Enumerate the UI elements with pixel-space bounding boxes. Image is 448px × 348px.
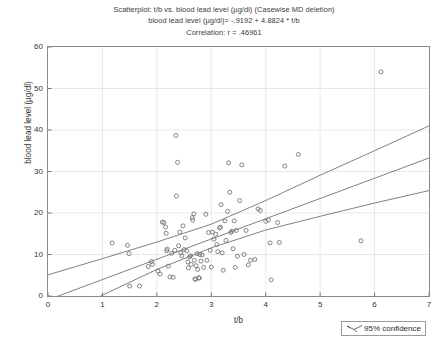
- chart-correlation: Correlation: r = .46961: [0, 27, 448, 38]
- x-axis-tick-labels: 01234567: [47, 300, 430, 314]
- data-point: [268, 241, 272, 245]
- y-tick-label: 20: [19, 209, 43, 217]
- x-tick-label: 7: [419, 300, 439, 310]
- data-point: [189, 262, 193, 266]
- chart-equation: blood lead level (µg/dl)= -.9192 + 4.882…: [0, 15, 448, 26]
- data-point: [223, 219, 227, 223]
- chart-title: Scatterplot: t/b vs. blood lead level (µ…: [0, 4, 448, 15]
- x-tick-label: 1: [92, 300, 112, 310]
- data-point: [205, 258, 209, 262]
- y-tick-label: 0: [19, 292, 43, 300]
- data-point: [192, 258, 196, 262]
- data-point: [253, 257, 257, 261]
- data-point: [221, 268, 225, 272]
- data-point: [199, 259, 203, 263]
- data-point: [248, 258, 252, 262]
- data-point: [283, 164, 287, 168]
- data-point: [164, 231, 168, 235]
- legend-label: 95% confidence: [364, 324, 421, 333]
- data-point: [231, 247, 235, 251]
- data-point: [137, 284, 141, 288]
- data-point: [146, 265, 150, 269]
- data-point: [233, 265, 237, 269]
- data-point: [202, 265, 206, 269]
- data-point: [228, 190, 232, 194]
- data-point: [181, 224, 185, 228]
- data-point: [178, 230, 182, 234]
- data-point: [191, 218, 195, 222]
- data-point: [192, 212, 196, 216]
- data-point: [216, 250, 220, 254]
- data-point: [277, 240, 281, 244]
- x-tick-label: 5: [310, 300, 330, 310]
- data-point: [207, 231, 211, 235]
- data-point: [214, 232, 218, 236]
- data-point: [110, 241, 114, 245]
- y-tick-label: 10: [19, 251, 43, 259]
- data-point: [227, 161, 231, 165]
- data-point: [219, 225, 223, 229]
- data-point: [238, 199, 242, 203]
- data-point: [176, 160, 180, 164]
- data-point: [174, 194, 178, 198]
- x-tick-label: 0: [38, 300, 58, 310]
- scatter-points: [110, 70, 383, 288]
- x-tick-label: 6: [365, 300, 385, 310]
- data-point: [240, 163, 244, 167]
- plot-area: [47, 46, 430, 297]
- confidence-band-icon: [346, 324, 363, 333]
- data-point: [296, 152, 300, 156]
- data-point: [174, 133, 178, 137]
- confidence-upper-band: [48, 126, 429, 275]
- data-point: [173, 248, 177, 252]
- data-point: [224, 238, 228, 242]
- data-point: [177, 244, 181, 248]
- x-tick-label: 4: [256, 300, 276, 310]
- data-point: [158, 272, 162, 276]
- data-point: [246, 263, 250, 267]
- data-point: [128, 284, 132, 288]
- data-point: [276, 221, 280, 225]
- data-point: [232, 219, 236, 223]
- data-point: [164, 225, 168, 229]
- x-tick-label: 3: [201, 300, 221, 310]
- data-point: [269, 278, 273, 282]
- x-tick-label: 2: [147, 300, 167, 310]
- plot-canvas: [48, 47, 429, 296]
- data-point: [359, 239, 363, 243]
- confidence-lower-band: [48, 191, 429, 296]
- data-point: [183, 236, 187, 240]
- chart-title-block: Scatterplot: t/b vs. blood lead level (µ…: [0, 4, 448, 38]
- data-point: [244, 228, 248, 232]
- gridlines: [48, 47, 429, 296]
- scatterplot-window: Scatterplot: t/b vs. blood lead level (µ…: [0, 0, 448, 348]
- data-point: [379, 70, 383, 74]
- data-point: [196, 267, 200, 271]
- data-point: [219, 203, 223, 207]
- legend-box[interactable]: 95% confidence: [341, 321, 426, 336]
- y-axis-title: blood lead level (µg/dl): [24, 43, 33, 203]
- data-point: [125, 243, 129, 247]
- y-axis-title-host: blood lead level (µg/dl): [0, 0, 1, 1]
- regression-line: [48, 158, 429, 296]
- data-point: [127, 252, 131, 256]
